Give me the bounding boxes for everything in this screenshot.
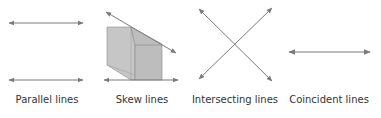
coincident-lines-label: Coincident lines [289, 94, 369, 105]
intersecting-line-2 [199, 8, 272, 79]
skew-lines-figure [104, 12, 178, 80]
skew-lines-label: Skew lines [116, 94, 169, 105]
parallel-lines-label: Parallel lines [16, 94, 79, 105]
intersecting-lines-label: Intersecting lines [192, 94, 278, 105]
intersecting-line-1 [199, 9, 272, 81]
parallel-lines-figure [9, 23, 83, 80]
box-front-face [131, 27, 162, 80]
intersecting-lines-figure [199, 8, 272, 81]
